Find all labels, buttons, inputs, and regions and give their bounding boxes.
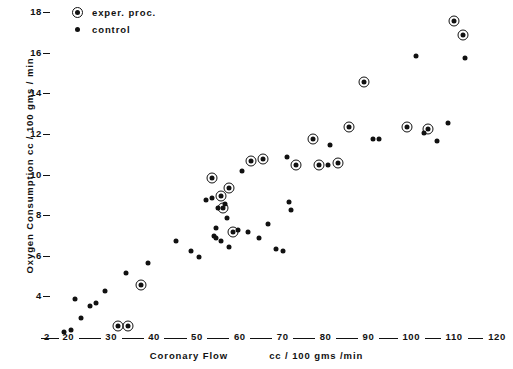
data-point-control — [413, 53, 418, 58]
data-point-control — [203, 197, 208, 202]
data-point-control — [265, 222, 270, 227]
data-point-control — [287, 199, 292, 204]
data-point-exper-proc — [359, 77, 370, 88]
data-point-exper-proc — [136, 280, 147, 291]
data-point-control — [87, 303, 92, 308]
data-point-control — [188, 248, 193, 253]
data-point-exper-proc — [333, 158, 344, 169]
data-point-control — [280, 248, 285, 253]
data-point-control — [214, 226, 219, 231]
data-point-exper-proc — [258, 154, 269, 165]
data-point-control — [79, 315, 84, 320]
data-point-exper-proc — [290, 160, 301, 171]
data-point-control — [94, 301, 99, 306]
data-point-exper-proc — [449, 16, 460, 27]
data-point-control — [327, 143, 332, 148]
data-point-exper-proc — [123, 320, 134, 331]
data-point-exper-proc — [457, 30, 468, 41]
data-point-control — [62, 329, 67, 334]
data-point-exper-proc — [307, 133, 318, 144]
data-point-control — [246, 230, 251, 235]
data-point-control — [124, 271, 129, 276]
data-point-control — [197, 254, 202, 259]
data-point-control — [216, 206, 221, 211]
data-point-control — [257, 236, 262, 241]
data-point-control — [434, 138, 439, 143]
data-point-exper-proc — [224, 182, 235, 193]
data-point-control — [284, 155, 289, 160]
data-point-exper-proc — [344, 121, 355, 132]
data-point-exper-proc — [314, 160, 325, 171]
data-point-control — [274, 246, 279, 251]
data-point-control — [289, 208, 294, 213]
data-point-exper-proc — [206, 172, 217, 183]
data-point-exper-proc — [112, 320, 123, 331]
data-point-control — [222, 201, 227, 206]
data-point-control — [173, 238, 178, 243]
data-point-control — [235, 228, 240, 233]
data-point-control — [239, 169, 244, 174]
data-point-exper-proc — [245, 156, 256, 167]
data-point-control — [102, 289, 107, 294]
data-point-control — [145, 260, 150, 265]
data-point-control — [68, 327, 73, 332]
data-point-control — [72, 297, 77, 302]
data-point-control — [218, 238, 223, 243]
data-point-control — [377, 136, 382, 141]
data-point-control — [370, 136, 375, 141]
data-point-control — [445, 120, 450, 125]
data-point-control — [325, 163, 330, 168]
data-point-exper-proc — [401, 121, 412, 132]
data-point-control — [224, 216, 229, 221]
data-point-control — [462, 55, 467, 60]
plot-area — [0, 0, 513, 369]
data-point-control — [227, 244, 232, 249]
data-point-control — [209, 195, 214, 200]
scatter-plot-figure: exper. proc. control Oxygen Consumption … — [0, 0, 513, 369]
data-point-control — [422, 130, 427, 135]
